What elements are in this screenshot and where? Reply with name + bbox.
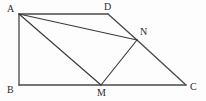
segment-DN: [108, 14, 137, 40]
segment-AN: [19, 14, 137, 40]
vertex-label-c: C: [190, 82, 197, 92]
vertex-label-d: D: [104, 2, 111, 12]
segment-MN: [101, 40, 137, 85]
vertex-label-a: A: [7, 4, 14, 14]
vertex-label-m: M: [97, 88, 106, 98]
vertex-label-n: N: [140, 27, 147, 37]
geometry-figure: ADNCMB: [0, 0, 206, 101]
segment-NC: [137, 40, 186, 85]
segment-AM: [19, 14, 101, 85]
figure-canvas: [0, 0, 206, 101]
edge-layer: [19, 14, 186, 85]
vertex-label-b: B: [7, 85, 14, 95]
